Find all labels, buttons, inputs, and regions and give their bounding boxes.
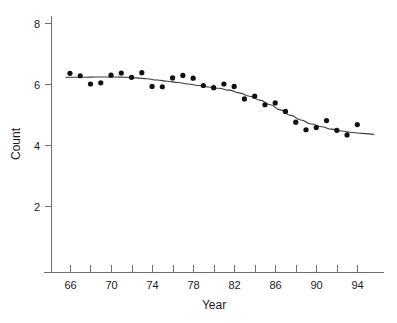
data-point: [283, 109, 288, 114]
data-point: [303, 127, 308, 132]
data-point: [88, 81, 93, 86]
data-point: [191, 76, 196, 81]
x-axis-ticks: [71, 265, 358, 273]
x-axis-title: Year: [202, 298, 226, 312]
x-tick-label: 74: [146, 279, 158, 291]
data-point: [170, 75, 175, 80]
x-tick-label: 86: [269, 279, 281, 291]
data-points-group: [67, 70, 360, 137]
data-point: [252, 94, 257, 99]
data-point: [67, 71, 72, 76]
x-tick-label: 82: [228, 279, 240, 291]
data-point: [160, 84, 165, 89]
data-point: [355, 122, 360, 127]
data-point: [273, 100, 278, 105]
chart-canvas: 2468 6670747882869094 Year Count: [0, 0, 397, 323]
data-point: [78, 73, 83, 78]
data-point: [211, 85, 216, 90]
x-tick-label: 70: [105, 279, 117, 291]
x-tick-label: 78: [187, 279, 199, 291]
data-point: [139, 70, 144, 75]
trend-line-smoothed: [66, 77, 374, 134]
data-point: [149, 84, 154, 89]
x-axis-tick-labels: 6670747882869094: [64, 279, 363, 291]
data-point: [119, 70, 124, 75]
y-tick-label: 8: [34, 18, 40, 30]
y-tick-label: 2: [34, 201, 40, 213]
x-tick-label: 94: [351, 279, 363, 291]
y-axis-title: Count: [9, 127, 23, 160]
y-axis-ticks: [45, 24, 52, 207]
data-point: [293, 120, 298, 125]
y-axis-tick-labels: 2468: [34, 18, 40, 213]
data-point: [129, 75, 134, 80]
data-point: [314, 125, 319, 130]
data-point: [324, 118, 329, 123]
data-point: [232, 84, 237, 89]
data-point: [242, 96, 247, 101]
y-tick-label: 6: [34, 79, 40, 91]
scatter-plot-figure: 2468 6670747882869094 Year Count: [0, 0, 397, 323]
data-point: [180, 73, 185, 78]
data-point: [98, 80, 103, 85]
data-point: [262, 102, 267, 107]
data-point: [334, 128, 339, 133]
y-tick-label: 4: [34, 140, 40, 152]
data-point: [221, 81, 226, 86]
x-tick-label: 90: [310, 279, 322, 291]
data-point: [201, 83, 206, 88]
data-point: [344, 132, 349, 137]
data-point: [108, 73, 113, 78]
x-tick-label: 66: [64, 279, 76, 291]
